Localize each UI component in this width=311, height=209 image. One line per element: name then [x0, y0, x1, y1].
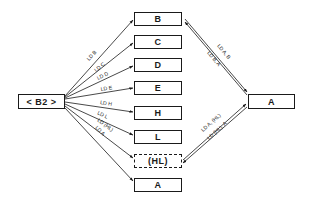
- label-ld-b-a: LD B, A: [206, 50, 222, 68]
- register-d-label: D: [155, 60, 162, 70]
- register-b-label: B: [155, 14, 162, 24]
- memory-hl: (HL): [134, 154, 182, 168]
- register-c-label: C: [155, 37, 162, 47]
- label-ld-h: LD H: [100, 99, 113, 107]
- register-a-target-label: A: [155, 180, 162, 190]
- accumulator-a: A: [248, 94, 295, 109]
- memory-hl-label: (HL): [148, 156, 168, 166]
- arrow-ld-b: [65, 20, 133, 96]
- register-l: L: [134, 130, 182, 144]
- register-l-label: L: [155, 132, 161, 142]
- register-d: D: [134, 58, 182, 72]
- register-h: H: [134, 106, 182, 120]
- source-register-b2: < B2 >: [18, 94, 65, 109]
- register-b: B: [134, 12, 182, 26]
- label-ld-e: LD E: [100, 84, 113, 92]
- label-ld-d: LD D: [96, 70, 109, 81]
- accumulator-a-label: A: [268, 97, 275, 107]
- label-ld-b: LD B: [85, 49, 98, 62]
- source-register-label: < B2 >: [26, 97, 56, 107]
- register-c: C: [134, 35, 182, 49]
- register-e: E: [134, 81, 182, 95]
- register-a-target: A: [134, 178, 182, 192]
- register-e-label: E: [155, 83, 162, 93]
- register-h-label: H: [155, 108, 162, 118]
- diagram-canvas: LD B LD C LD D LD E LD H LD L LD (HL) LD…: [0, 0, 311, 209]
